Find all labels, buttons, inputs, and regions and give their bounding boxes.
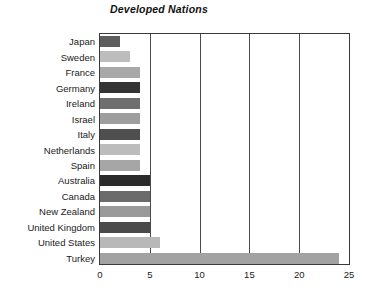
bar-row <box>100 220 349 235</box>
bar-row <box>100 49 349 64</box>
y-label-germany: Germany <box>0 83 95 94</box>
bar-ireland[interactable] <box>100 98 140 109</box>
x-tick-20: 20 <box>284 269 314 280</box>
bar-row <box>100 235 349 250</box>
bar-row <box>100 65 349 80</box>
bar-australia[interactable] <box>100 175 150 186</box>
y-axis-category-labels: JapanSwedenFranceGermanyIrelandIsraelIta… <box>0 33 95 265</box>
x-tick-5: 5 <box>135 269 165 280</box>
y-label-canada: Canada <box>0 191 95 202</box>
x-tick-0: 0 <box>85 269 115 280</box>
bar-netherlands[interactable] <box>100 144 140 155</box>
bar-row <box>100 80 349 95</box>
bar-sweden[interactable] <box>100 51 130 62</box>
bars-layer <box>100 34 349 264</box>
bar-united-kingdom[interactable] <box>100 222 150 233</box>
bar-chart: Developed Nations JapanSwedenFranceGerma… <box>0 0 368 300</box>
y-label-united-states: United States <box>0 237 95 248</box>
y-label-france: France <box>0 67 95 78</box>
x-tick-25: 25 <box>334 269 364 280</box>
bar-germany[interactable] <box>100 82 140 93</box>
y-label-italy: Italy <box>0 129 95 140</box>
y-label-spain: Spain <box>0 160 95 171</box>
y-label-australia: Australia <box>0 175 95 186</box>
chart-title: Developed Nations <box>0 3 318 15</box>
bar-row <box>100 96 349 111</box>
bar-row <box>100 111 349 126</box>
y-label-netherlands: Netherlands <box>0 145 95 156</box>
bar-italy[interactable] <box>100 129 140 140</box>
bar-row <box>100 34 349 49</box>
y-label-israel: Israel <box>0 114 95 125</box>
y-label-turkey: Turkey <box>0 253 95 264</box>
y-label-new-zealand: New Zealand <box>0 206 95 217</box>
x-tick-15: 15 <box>234 269 264 280</box>
bar-row <box>100 127 349 142</box>
bar-new-zealand[interactable] <box>100 206 150 217</box>
bar-row <box>100 142 349 157</box>
bar-row <box>100 189 349 204</box>
x-axis-tick-labels: 0510152025 <box>0 269 368 285</box>
bar-row <box>100 204 349 219</box>
bar-japan[interactable] <box>100 36 120 47</box>
y-label-japan: Japan <box>0 36 95 47</box>
bar-france[interactable] <box>100 67 140 78</box>
y-label-united-kingdom: United Kingdom <box>0 222 95 233</box>
bar-row <box>100 251 349 266</box>
bar-row <box>100 158 349 173</box>
bar-row <box>100 173 349 188</box>
bar-turkey[interactable] <box>100 253 339 264</box>
bar-israel[interactable] <box>100 113 140 124</box>
y-label-sweden: Sweden <box>0 52 95 63</box>
y-label-ireland: Ireland <box>0 98 95 109</box>
bar-canada[interactable] <box>100 191 150 202</box>
plot-area <box>99 33 350 265</box>
x-tick-10: 10 <box>185 269 215 280</box>
bar-united-states[interactable] <box>100 237 160 248</box>
bar-spain[interactable] <box>100 160 140 171</box>
